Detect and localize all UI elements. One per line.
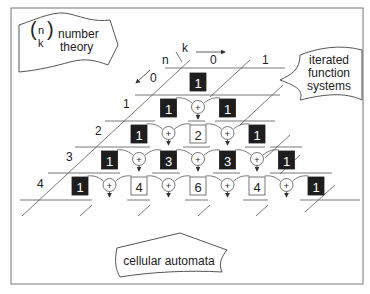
row-label-0: 0	[150, 71, 157, 85]
cell-value: 2	[194, 128, 201, 143]
adder-n4-k0: +	[88, 176, 132, 197]
cell-n1-k1: 1	[220, 99, 236, 117]
cell-value: 1	[106, 154, 113, 169]
row-label-3: 3	[66, 150, 73, 164]
svg-text:+: +	[225, 181, 230, 191]
svg-text:+: +	[166, 181, 171, 191]
callout-iterated-function-systems: iterated function systems	[280, 47, 362, 100]
binom-k: k	[38, 37, 44, 49]
row-label-1: 1	[123, 97, 130, 111]
cellular-automata-label: cellular automata	[123, 254, 215, 268]
cell-n4-k4: 1	[308, 177, 324, 195]
cell-value: 1	[224, 102, 231, 117]
cell-n3-k0: 1	[102, 151, 118, 169]
adder-n4-k2: +	[206, 176, 250, 197]
ifs-line3: systems	[307, 79, 351, 93]
svg-text:+: +	[195, 155, 200, 165]
adder-n4-k1: +	[147, 176, 191, 197]
cell-n2-k2: 1	[249, 125, 265, 143]
cell-n2-k1: 2	[190, 125, 206, 143]
adder-n2-k1: +	[206, 124, 250, 145]
cell-value: 3	[165, 154, 172, 169]
cell-n4-k0: 1	[72, 177, 88, 195]
axis-n-label: n	[162, 53, 169, 67]
cell-value: 1	[283, 154, 290, 169]
adder-n3-k0: +	[117, 150, 161, 171]
adder-n2-k0: +	[147, 124, 191, 145]
cell-n4-k3: 4	[249, 177, 265, 195]
cell-n4-k1: 4	[131, 177, 147, 195]
svg-text:+: +	[136, 155, 141, 165]
cell-value: 1	[194, 76, 201, 91]
adder-n1-k0: +	[176, 98, 220, 119]
cell-value: 4	[253, 180, 260, 195]
adder-n4-k3: +	[265, 176, 309, 197]
adder-n3-k2: +	[235, 150, 279, 171]
left-paren: (	[30, 18, 37, 40]
adder-n3-k1: +	[176, 150, 220, 171]
cell-value: 6	[194, 180, 201, 195]
svg-text:+: +	[254, 155, 259, 165]
number-theory-line1: number	[58, 27, 99, 41]
svg-text:+: +	[284, 181, 289, 191]
callout-cellular-automata: cellular automata	[116, 233, 227, 277]
binom-n: n	[38, 24, 44, 36]
callout-number-theory: ( ) n k number theory	[19, 13, 118, 72]
cell-n3-k3: 1	[279, 151, 295, 169]
svg-text:+: +	[107, 181, 112, 191]
cell-value: 1	[165, 102, 172, 117]
cell-value: 1	[135, 128, 142, 143]
pascal-triangle-diagram: ( ) n k number theory iterated function …	[0, 0, 370, 294]
row-label-2: 2	[95, 124, 102, 138]
cell-n3-k1: 3	[161, 151, 177, 169]
cell-n4-k2: 6	[190, 177, 206, 195]
n-direction-arrow	[136, 70, 150, 83]
cell-value: 4	[135, 180, 142, 195]
cell-n1-k0: 1	[161, 99, 177, 117]
cell-n3-k2: 3	[220, 151, 236, 169]
svg-text:+: +	[195, 103, 200, 113]
cell-n0-k0: 1	[190, 73, 206, 91]
cell-value: 1	[312, 180, 319, 195]
row-label-4: 4	[37, 177, 44, 191]
cell-value: 1	[76, 180, 83, 195]
right-paren: )	[47, 18, 54, 40]
col-label-0: 0	[210, 53, 217, 67]
col-label-1: 1	[262, 53, 269, 67]
ifs-line1: iterated	[309, 53, 349, 67]
svg-text:+: +	[225, 129, 230, 139]
ifs-line2: function	[308, 66, 350, 80]
cell-value: 3	[224, 154, 231, 169]
axis-k-label: k	[182, 41, 189, 55]
svg-text:+: +	[166, 129, 171, 139]
cell-value: 1	[253, 128, 260, 143]
number-theory-line2: theory	[60, 40, 93, 54]
cell-n2-k0: 1	[131, 125, 147, 143]
